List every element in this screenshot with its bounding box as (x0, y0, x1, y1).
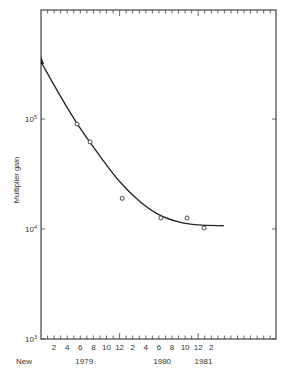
x-axis-ticks (48, 10, 271, 339)
x-tick-label: 10 (181, 343, 190, 352)
x-tick-label: 4 (65, 343, 70, 352)
data-point (75, 122, 79, 126)
x-tick-label: 12 (194, 343, 203, 352)
y-axis-tick-labels: 105104103 (25, 114, 37, 344)
data-point (202, 226, 206, 230)
x-tick-label: 2 (130, 343, 135, 352)
x-axis-tick-labels: 24681012246810122New197919801981 (16, 343, 214, 366)
gain-vs-time-chart: 24681012246810122New197919801981 1051041… (0, 0, 288, 376)
x-group-label: 1980 (153, 357, 171, 366)
x-tick-label: 2 (52, 343, 57, 352)
x-tick-label: 6 (78, 343, 83, 352)
fitted-curve-line (41, 62, 224, 226)
x-tick-label: 10 (102, 343, 111, 352)
x-tick-label: 12 (115, 343, 124, 352)
x-tick-label: 6 (157, 343, 162, 352)
y-tick-label: 105 (25, 114, 37, 124)
y-axis-ticks (41, 119, 276, 339)
x-group-label: 1979 (75, 357, 93, 366)
y-axis-title: Multiplier gain (12, 157, 21, 203)
x-tick-label: 8 (170, 343, 175, 352)
y-tick-label: 104 (25, 224, 37, 234)
plot-border (41, 10, 276, 339)
x-group-label: 1981 (195, 357, 213, 366)
x-tick-label: 2 (209, 343, 214, 352)
fitted-curve (41, 56, 224, 226)
data-point (185, 216, 189, 220)
x-group-label: New (16, 357, 32, 366)
x-tick-label: 8 (91, 343, 96, 352)
x-tick-label: 4 (144, 343, 149, 352)
data-point (120, 196, 124, 200)
data-point (88, 140, 92, 144)
data-point (159, 216, 163, 220)
y-tick-label: 103 (25, 334, 37, 344)
plot-frame (41, 10, 276, 339)
data-points (75, 122, 206, 230)
